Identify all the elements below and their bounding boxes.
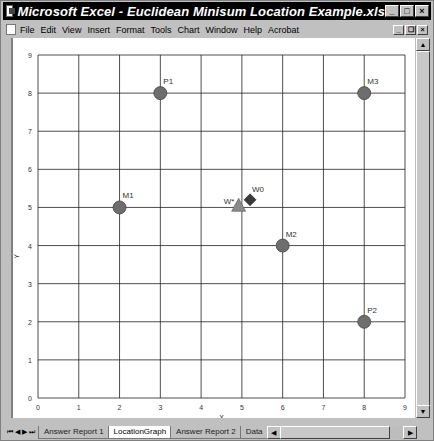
tab-location-graph[interactable]: LocationGraph [108, 426, 172, 439]
point-label: W* [224, 197, 235, 206]
x-tick-label: 0 [36, 404, 40, 411]
scroll-right-button[interactable]: ▶ [403, 426, 417, 439]
prev-sheet-button[interactable]: ◀ [15, 428, 20, 436]
x-tick-label: 9 [403, 404, 407, 411]
vertical-scrollbar[interactable]: ▲ ▼ [416, 38, 430, 418]
scroll-left-button[interactable]: ◀ [267, 426, 281, 439]
y-tick-label: 2 [28, 319, 32, 326]
menu-view[interactable]: View [62, 25, 81, 35]
menu-bar: File Edit View Insert Format Tools Chart… [3, 21, 431, 38]
scatter-chart[interactable]: 01234567890123456789XYP1M3M1M2P2W*W0 [13, 38, 415, 418]
x-tick-label: 5 [240, 404, 244, 411]
menu-format[interactable]: Format [116, 25, 145, 35]
y-tick-label: 8 [28, 90, 32, 97]
facility-point-m1[interactable] [113, 201, 126, 214]
minimize-button[interactable]: _ [385, 5, 399, 17]
tab-data[interactable]: Data [240, 426, 269, 439]
facility-point-m2[interactable] [276, 239, 289, 252]
maximize-button[interactable]: □ [400, 5, 414, 17]
y-tick-label: 1 [28, 357, 32, 364]
doc-minimize-button[interactable]: _ [393, 25, 404, 35]
sheet-tab-bar: ⏮ ◀ ▶ ⏭ Answer Report 1 LocationGraph An… [3, 425, 431, 439]
horizontal-scroll-thumb[interactable] [280, 426, 390, 439]
first-sheet-button[interactable]: ⏮ [7, 428, 13, 436]
close-button[interactable]: × [415, 5, 429, 17]
menu-window[interactable]: Window [205, 25, 237, 35]
title-bar: Microsoft Excel - Euclidean Minisum Loca… [3, 2, 431, 20]
menu-tools[interactable]: Tools [150, 25, 171, 35]
point-label: P1 [163, 77, 173, 86]
y-tick-label: 7 [28, 128, 32, 135]
vertical-scroll-thumb[interactable] [416, 51, 430, 406]
facility-point-m3[interactable] [358, 87, 371, 100]
x-tick-label: 1 [77, 404, 81, 411]
menu-help[interactable]: Help [243, 25, 262, 35]
point-label: M1 [123, 191, 135, 200]
x-tick-label: 7 [321, 404, 325, 411]
document-icon[interactable] [6, 24, 16, 35]
y-tick-label: 6 [28, 166, 32, 173]
scroll-down-button[interactable]: ▼ [416, 405, 430, 418]
x-tick-label: 3 [158, 404, 162, 411]
excel-window: Microsoft Excel - Euclidean Minisum Loca… [0, 0, 434, 441]
point-label: W0 [252, 185, 265, 194]
x-tick-label: 4 [199, 404, 203, 411]
menu-chart[interactable]: Chart [177, 25, 199, 35]
x-tick-label: 8 [362, 404, 366, 411]
y-tick-label: 4 [28, 243, 32, 250]
tab-answer-report-1[interactable]: Answer Report 1 [38, 426, 110, 439]
facility-point-p2[interactable] [358, 315, 371, 328]
point-label: M2 [286, 230, 298, 239]
point-label: M3 [367, 77, 379, 86]
menu-file[interactable]: File [20, 25, 35, 35]
doc-restore-button[interactable]: ❐ [405, 25, 416, 35]
y-tick-label: 9 [28, 52, 32, 59]
y-tick-label: 3 [28, 281, 32, 288]
doc-close-button[interactable]: × [417, 25, 428, 35]
scroll-up-button[interactable]: ▲ [416, 38, 430, 51]
excel-app-icon[interactable] [6, 5, 13, 17]
chart-sheet[interactable]: 01234567890123456789XYP1M3M1M2P2W*W0 [11, 38, 415, 418]
menu-acrobat[interactable]: Acrobat [268, 25, 299, 35]
x-tick-label: 2 [118, 404, 122, 411]
tab-answer-report-2[interactable]: Answer Report 2 [170, 426, 242, 439]
next-sheet-button[interactable]: ▶ [22, 428, 27, 436]
x-tick-label: 6 [281, 404, 285, 411]
initial-point-diamond[interactable] [244, 194, 256, 206]
menu-edit[interactable]: Edit [41, 25, 57, 35]
horizontal-scrollbar[interactable]: ◀ ▶ [267, 426, 417, 439]
window-title: Microsoft Excel - Euclidean Minisum Loca… [17, 4, 385, 19]
last-sheet-button[interactable]: ⏭ [29, 428, 35, 436]
point-label: P2 [367, 306, 377, 315]
x-axis-label: X [219, 414, 224, 418]
facility-point-p1[interactable] [154, 87, 167, 100]
y-tick-label: 0 [28, 395, 32, 402]
menu-insert[interactable]: Insert [87, 25, 110, 35]
y-axis-label: Y [13, 254, 20, 259]
y-tick-label: 5 [28, 204, 32, 211]
